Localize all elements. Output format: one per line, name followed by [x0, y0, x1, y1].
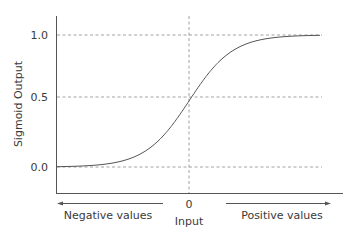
arrow-right-icon: [325, 202, 331, 206]
y-axis-label: Sigmoid Output: [12, 60, 25, 147]
xtick-0: 0: [186, 198, 193, 211]
ytick-0-5: 0.5: [31, 91, 49, 104]
positive-arrow: [226, 202, 331, 206]
ytick-0: 0.0: [31, 161, 49, 174]
gridlines: [57, 16, 322, 193]
positive-values-label: Positive values: [241, 209, 323, 222]
sigmoid-chart: 1.0 0.5 0.0 0 Sigmoid Output Input Negat…: [0, 0, 351, 242]
negative-values-label: Negative values: [64, 209, 153, 222]
x-axis-label: Input: [175, 215, 204, 228]
negative-arrow: [57, 202, 163, 206]
arrow-left-icon: [57, 202, 63, 206]
ytick-1: 1.0: [31, 29, 49, 42]
sigmoid-curve: [57, 35, 320, 166]
